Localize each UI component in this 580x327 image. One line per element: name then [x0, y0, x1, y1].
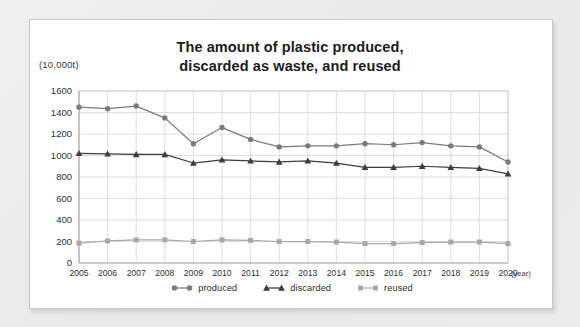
legend-item-produced[interactable]: produced	[171, 283, 237, 293]
y-axis-tick-label: 1000	[51, 150, 72, 161]
square-marker-right	[373, 286, 378, 291]
series-layer	[76, 103, 512, 246]
legend-label-reused: reused	[384, 283, 413, 293]
x-axis-tick-label: 2015	[355, 268, 374, 278]
chart-svg: 02004006008001000120014001600 2005200620…	[30, 20, 554, 310]
data-point-reused	[134, 237, 139, 242]
data-point-reused	[363, 241, 368, 246]
plot-area: 02004006008001000120014001600 2005200620…	[30, 20, 554, 310]
x-axis-tick-label: 2006	[98, 268, 117, 278]
data-point-produced	[305, 143, 310, 148]
circle-marker-right	[187, 285, 192, 290]
legend-item-reused[interactable]: reused	[357, 283, 413, 293]
x-axis-tick-label: 2008	[155, 268, 174, 278]
x-axis-tick-label: 2019	[470, 268, 489, 278]
y-axis-tick-label: 800	[56, 171, 72, 182]
ytick-layer: 02004006008001000120014001600	[51, 85, 72, 268]
data-point-reused	[162, 237, 167, 242]
data-point-reused	[506, 241, 511, 246]
data-point-reused	[391, 241, 396, 246]
series-discarded	[76, 150, 512, 177]
data-point-reused	[334, 240, 339, 245]
x-axis-tick-label: 2018	[441, 268, 460, 278]
data-point-produced	[334, 143, 339, 148]
x-axis-tick-label: 2010	[212, 268, 231, 278]
data-point-produced	[277, 144, 282, 149]
y-axis-tick-label: 1200	[51, 128, 72, 139]
y-axis-tick-label: 600	[56, 193, 72, 204]
x-axis-tick-label: 2005	[69, 268, 88, 278]
circle-marker	[171, 283, 193, 293]
square-marker	[357, 283, 379, 293]
grid-layer	[79, 91, 508, 263]
x-axis-tick-label: 2011	[241, 268, 260, 278]
data-point-reused	[248, 238, 253, 243]
series-line-discarded	[79, 153, 508, 173]
x-axis-tick-label: 2012	[270, 268, 289, 278]
data-point-reused	[305, 239, 310, 244]
data-point-produced	[219, 125, 224, 130]
data-point-reused	[191, 239, 196, 244]
y-axis-tick-label: 1600	[51, 85, 72, 96]
triangle-marker	[263, 283, 285, 293]
data-point-produced	[391, 142, 396, 147]
y-axis-tick-label: 400	[56, 214, 72, 225]
data-point-reused	[277, 239, 282, 244]
chart-card: The amount of plastic produced, discarde…	[29, 19, 553, 309]
data-point-reused	[105, 238, 110, 243]
legend-label-produced: produced	[198, 283, 237, 293]
y-axis-tick-label: 0	[67, 257, 72, 268]
x-axis-tick-label: 2013	[298, 268, 317, 278]
data-point-produced	[76, 104, 81, 109]
y-axis-tick-label: 1400	[51, 107, 72, 118]
xtick-layer: 2005200620072008200920102011201220132014…	[69, 268, 531, 278]
chart-legend: produceddiscardedreused	[30, 283, 554, 293]
legend-item-discarded[interactable]: discarded	[263, 283, 331, 293]
data-point-produced	[420, 140, 425, 145]
x-axis-unit-label: (year)	[511, 269, 531, 278]
data-point-produced	[362, 141, 367, 146]
data-point-produced	[134, 103, 139, 108]
data-point-reused	[220, 237, 225, 242]
data-point-produced	[105, 106, 110, 111]
data-point-produced	[448, 143, 453, 148]
x-axis-tick-label: 2016	[384, 268, 403, 278]
data-point-produced	[162, 115, 167, 120]
x-axis-tick-label: 2007	[127, 268, 146, 278]
x-axis-tick-label: 2014	[327, 268, 346, 278]
square-marker-left	[358, 286, 363, 291]
data-point-produced	[505, 159, 510, 164]
data-point-reused	[420, 240, 425, 245]
data-point-produced	[191, 141, 196, 146]
data-point-reused	[77, 241, 82, 246]
data-point-reused	[448, 240, 453, 245]
x-axis-tick-label: 2009	[184, 268, 203, 278]
x-axis-tick-label: 2017	[413, 268, 432, 278]
y-axis-tick-label: 200	[56, 236, 72, 247]
data-point-produced	[248, 137, 253, 142]
data-point-reused	[477, 240, 482, 245]
circle-marker-left	[172, 285, 177, 290]
legend-label-discarded: discarded	[290, 283, 331, 293]
data-point-produced	[477, 144, 482, 149]
